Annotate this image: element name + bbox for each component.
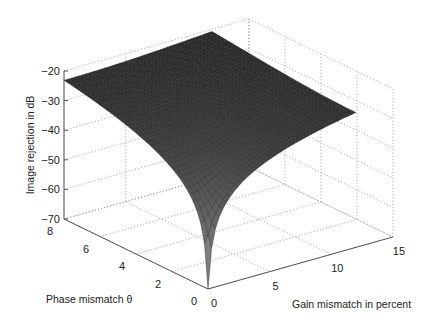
svg-text:0: 0 [211,297,217,309]
svg-text:2: 2 [155,278,161,290]
y-axis-label: Phase mismatch θ [46,293,133,305]
surface-plot: −20−30−40−50−60−7002468051015 Image reje… [0,0,434,332]
svg-text:5: 5 [273,280,279,292]
svg-text:−20: −20 [41,65,60,77]
svg-text:−70: −70 [41,213,60,225]
x-axis-label: Gain mismatch in percent [292,298,411,310]
svg-text:8: 8 [47,225,53,237]
surface-mesh [64,31,356,289]
svg-text:0: 0 [191,295,197,307]
svg-text:−60: −60 [41,183,60,195]
svg-text:−50: −50 [41,154,60,166]
svg-text:−30: −30 [41,95,60,107]
svg-text:15: 15 [393,245,405,257]
svg-text:10: 10 [331,262,343,274]
z-axis-label: Image rejection in dB [24,96,36,195]
svg-text:4: 4 [119,260,125,272]
svg-text:−40: −40 [41,124,60,136]
svg-text:6: 6 [83,243,89,255]
